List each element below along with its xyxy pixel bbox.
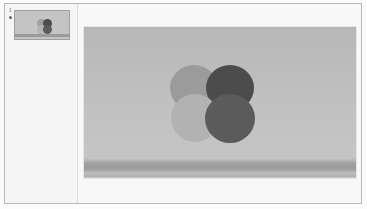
slide-marker-icon [9, 16, 12, 19]
slide-canvas[interactable] [84, 27, 356, 178]
slide-thumbnail-pane[interactable]: 1 [5, 4, 78, 203]
presentation-window: 1 [4, 3, 362, 204]
slide-number: 1 [9, 8, 12, 13]
thumb-band [15, 34, 69, 37]
slide-editor-area[interactable] [78, 4, 361, 203]
thumb-circle-bottom-right [43, 25, 52, 34]
circle-bottom-right[interactable] [205, 94, 255, 143]
decorative-band [84, 158, 356, 177]
slide-thumbnail-1[interactable] [14, 10, 70, 40]
